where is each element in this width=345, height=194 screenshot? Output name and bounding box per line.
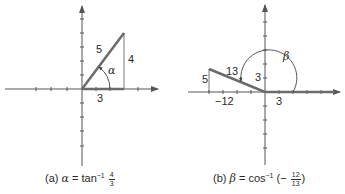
caption-a-exp: −1 xyxy=(97,172,105,179)
caption-b-open: (− xyxy=(274,172,287,184)
caption-b-fraction: 1213 xyxy=(291,171,301,188)
fraction-den: 3 xyxy=(109,180,115,188)
angle-beta-label: β xyxy=(283,50,289,63)
fraction-den: 13 xyxy=(291,180,301,188)
angle-alpha-label: α xyxy=(108,64,115,77)
caption-a-fraction: 43 xyxy=(109,171,115,188)
adjacent-label-a: 3 xyxy=(97,92,103,104)
diagram-canvas xyxy=(0,0,345,194)
x-label-b: 3 xyxy=(276,95,282,107)
caption-b-exp: −1 xyxy=(266,172,274,179)
caption-b-eq: = cos xyxy=(236,172,266,184)
figure-b-axes xyxy=(188,5,340,165)
adjacent-label-b: −12 xyxy=(215,95,234,107)
radius-label-b: 3 xyxy=(255,71,261,83)
caption-a-eq: = tan xyxy=(69,172,97,184)
opposite-label-a: 4 xyxy=(128,53,134,65)
figure-a-triangle xyxy=(82,33,124,89)
caption-b: (b) β = cos−1 (− 1213) xyxy=(213,171,305,188)
figure-a-axes xyxy=(5,6,158,166)
caption-a-prefix: (a) xyxy=(45,172,58,184)
hypotenuse-label-b: 13 xyxy=(226,65,238,77)
opposite-label-b: 5 xyxy=(202,73,208,85)
fraction-num: 4 xyxy=(109,171,115,180)
caption-b-close: ) xyxy=(302,172,306,184)
caption-a: (a) α = tan−1 43 xyxy=(45,171,116,188)
caption-b-prefix: (b) xyxy=(213,172,226,184)
hypotenuse-label-a: 5 xyxy=(96,43,102,55)
caption-a-var: α xyxy=(62,172,69,185)
fraction-num: 12 xyxy=(291,171,301,180)
